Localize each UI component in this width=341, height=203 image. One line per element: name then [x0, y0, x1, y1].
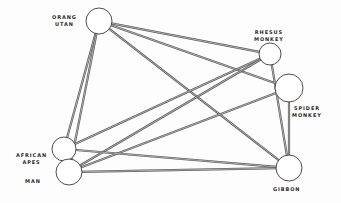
node-man	[56, 159, 82, 185]
node-orang-utan	[86, 8, 112, 34]
node-rhesus-monkey	[259, 43, 281, 65]
label-african-apes: AFRICAN APES	[16, 152, 47, 166]
label-man-line1: MAN	[25, 178, 41, 185]
label-rhesus-monkey-line1: RHESUS	[254, 29, 284, 36]
edge-orang_utan-man	[71, 31, 97, 163]
edge-rhesus_monkey-african_apes	[72, 57, 262, 145]
edge-man-gibbon	[79, 168, 280, 172]
label-orang-utan-line2: UTAN	[52, 21, 77, 28]
node-spider-monkey	[275, 74, 303, 102]
node-gibbon	[276, 155, 302, 181]
edge-orang_utan-gibbon	[107, 27, 282, 162]
label-spider-monkey-line1: SPIDER	[292, 105, 322, 112]
label-rhesus-monkey: RHESUS MONKEY	[254, 29, 284, 43]
label-spider-monkey-line2: MONKEY	[292, 112, 322, 119]
label-gibbon-line1: GIBBON	[273, 186, 300, 193]
edge-orang_utan-african_apes	[66, 30, 96, 140]
primate-relationship-diagram: ORANG UTAN RHESUS MONKEY SPIDER MONKEY A…	[0, 0, 341, 203]
label-gibbon: GIBBON	[273, 186, 300, 193]
edge-orang_utan-rhesus_monkey	[109, 23, 262, 53]
edge-spider_monkey-man	[78, 92, 279, 169]
label-african-apes-line1: AFRICAN	[16, 152, 47, 159]
label-rhesus-monkey-line2: MONKEY	[254, 36, 284, 43]
network-graph	[0, 0, 341, 203]
node-african-apes	[52, 137, 76, 161]
label-african-apes-line2: APES	[16, 159, 47, 166]
edges-layer	[66, 23, 289, 172]
label-orang-utan: ORANG UTAN	[52, 14, 77, 28]
edge-rhesus_monkey-man	[77, 58, 262, 167]
label-man: MAN	[25, 178, 41, 185]
label-spider-monkey: SPIDER MONKEY	[292, 105, 322, 119]
label-orang-utan-line1: ORANG	[52, 14, 77, 21]
